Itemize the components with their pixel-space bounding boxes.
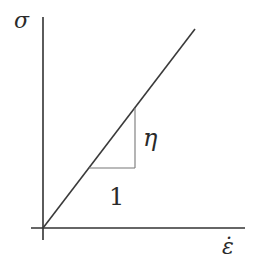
slope-label-eta: η <box>143 124 158 152</box>
diagram-canvas: σ ε̇ η 1 <box>0 0 257 265</box>
slope-run-label-one: 1 <box>109 183 124 211</box>
y-axis-label-sigma: σ <box>14 8 30 33</box>
x-axis-label-strain-rate: ε̇ <box>222 234 234 259</box>
